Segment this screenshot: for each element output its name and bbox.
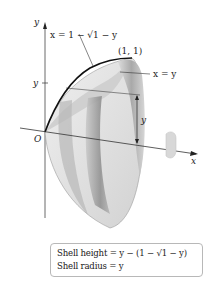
y-axis-label: y (33, 17, 40, 27)
y-axis-arrow-icon (43, 22, 47, 29)
curve-label: x = 1 − √1 − y (50, 30, 118, 40)
height-label: y (140, 115, 147, 125)
origin-label: O (34, 134, 42, 144)
rotation-arrow-icon (166, 132, 176, 158)
point-label: (1, 1) (118, 46, 142, 56)
shell-height-formula: Shell height = y − (1 − √1 − y) (57, 248, 187, 258)
shell-radius-formula: Shell radius = y (57, 261, 123, 271)
formula-box: Shell height = y − (1 − √1 − y) Shell ra… (50, 243, 203, 277)
y-tick-label: y (32, 78, 39, 88)
line-label: x = y (153, 69, 177, 79)
x-axis-label: x (191, 156, 196, 166)
solid-diagram: y x = 1 − √1 − y (1, 1) x = y y y O x (0, 0, 213, 281)
